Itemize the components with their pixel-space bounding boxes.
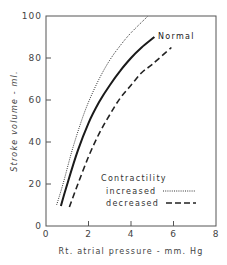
legend-label-decreased: decreased	[106, 199, 159, 208]
y-tick-label: 80	[29, 53, 42, 63]
y-tick-label: 20	[29, 179, 42, 189]
x-tick-label: 6	[170, 229, 177, 239]
normal-curve-label: Normal	[158, 32, 195, 41]
chart: 020406080100 02468 Rt. atrial pressure -…	[0, 0, 227, 265]
y-axis-ticks: 020406080100	[22, 11, 51, 231]
y-axis-title: Stroke volume - ml.	[10, 70, 19, 171]
y-tick-label: 0	[35, 221, 42, 231]
x-tick-label: 8	[213, 229, 220, 239]
x-tick-label: 0	[43, 229, 50, 239]
legend-title: Contractility	[101, 174, 167, 183]
y-tick-label: 40	[29, 137, 42, 147]
x-axis-title: Rt. atrial pressure - mm. Hg	[59, 247, 204, 256]
y-tick-label: 60	[29, 95, 42, 105]
x-tick-label: 4	[128, 229, 135, 239]
y-tick-label: 100	[22, 11, 42, 21]
legend: Contractility increased decreased	[101, 174, 196, 208]
legend-label-increased: increased	[106, 187, 157, 196]
x-tick-label: 2	[85, 229, 92, 239]
x-axis-ticks: 02468	[43, 221, 220, 239]
